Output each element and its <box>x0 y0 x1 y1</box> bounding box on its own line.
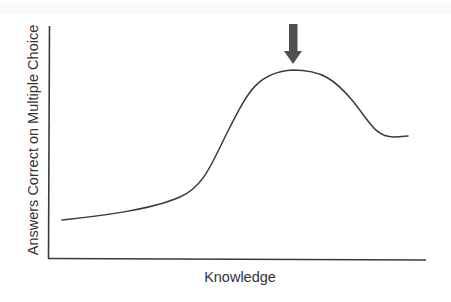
y-axis-label: Answers Correct on Multiple Choice <box>25 25 41 255</box>
x-axis <box>48 259 426 261</box>
data-curve <box>62 70 408 220</box>
x-axis-label: Knowledge <box>204 269 276 285</box>
peak-arrow-icon <box>284 24 302 64</box>
chart-canvas <box>0 0 451 302</box>
y-axis <box>49 26 50 259</box>
